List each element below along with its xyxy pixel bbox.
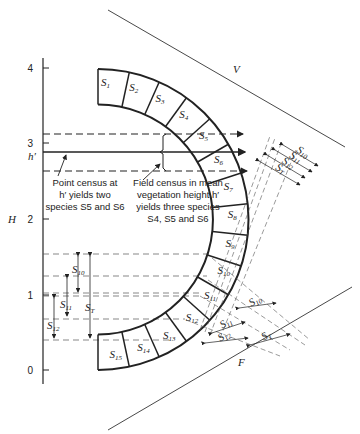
line-v (108, 10, 345, 147)
segment-s8: S8 (228, 208, 238, 222)
segment-s12: S12 (186, 311, 199, 325)
segment-s14: S14 (137, 341, 150, 355)
axis-tick-label: 4 (27, 63, 33, 74)
line-f-label: F (237, 356, 245, 368)
segment-s1: S1 (101, 76, 110, 90)
h-prime-label: h′ (28, 150, 37, 162)
segment-s15: S15 (110, 348, 123, 362)
segment-divider (198, 277, 229, 295)
point-census-annotation: Point census at h′ yields two species S5… (45, 177, 124, 212)
axis-tick-label: 0 (27, 365, 33, 376)
svg-text:S4, S5 and S6: S4, S5 and S6 (147, 213, 208, 224)
vegetation-diagram: 01234 H V F h′ Point census at h′ yields… (0, 0, 360, 434)
projection-line (210, 141, 282, 335)
segment-s7: S7 (224, 180, 234, 194)
segment-s9: S9 (226, 237, 236, 251)
segment-s4: S4 (179, 108, 189, 122)
segment-divider (122, 332, 129, 367)
range-label-st: ST (85, 301, 96, 315)
range-label-s10: S10 (72, 263, 85, 277)
segment-s13: S13 (163, 329, 176, 343)
segment-divider (198, 144, 229, 162)
svg-text:vegetation height h′: vegetation height h′ (137, 189, 219, 200)
segment-s11: S11 (204, 289, 216, 303)
range-label-s11: S11 (60, 298, 72, 312)
svg-text:Field census in mean: Field census in mean (133, 177, 223, 188)
svg-text:h′ yields two: h′ yields two (59, 189, 110, 200)
point-census-arrow (58, 155, 66, 176)
line-f (108, 287, 352, 430)
svg-text:Point census at: Point census at (53, 177, 118, 188)
segment-s3: S3 (156, 92, 166, 106)
range-label-s12: S12 (47, 319, 60, 333)
svg-text:species S5 and S6: species S5 and S6 (45, 201, 124, 212)
axis-tick-label: 1 (27, 290, 33, 301)
segment-s5: S5 (199, 129, 209, 143)
segment-s6: S6 (214, 153, 224, 167)
f-projection-s11: S11 (217, 314, 234, 332)
axis-tick-label: 2 (27, 214, 33, 225)
segment-divider (212, 232, 247, 236)
svg-text:yields three species: yields three species (136, 201, 220, 212)
axis-tick-label: 3 (27, 138, 33, 149)
segment-s2: S2 (129, 81, 139, 95)
h-axis-label: H (7, 213, 17, 225)
line-v-label: V (233, 63, 241, 75)
